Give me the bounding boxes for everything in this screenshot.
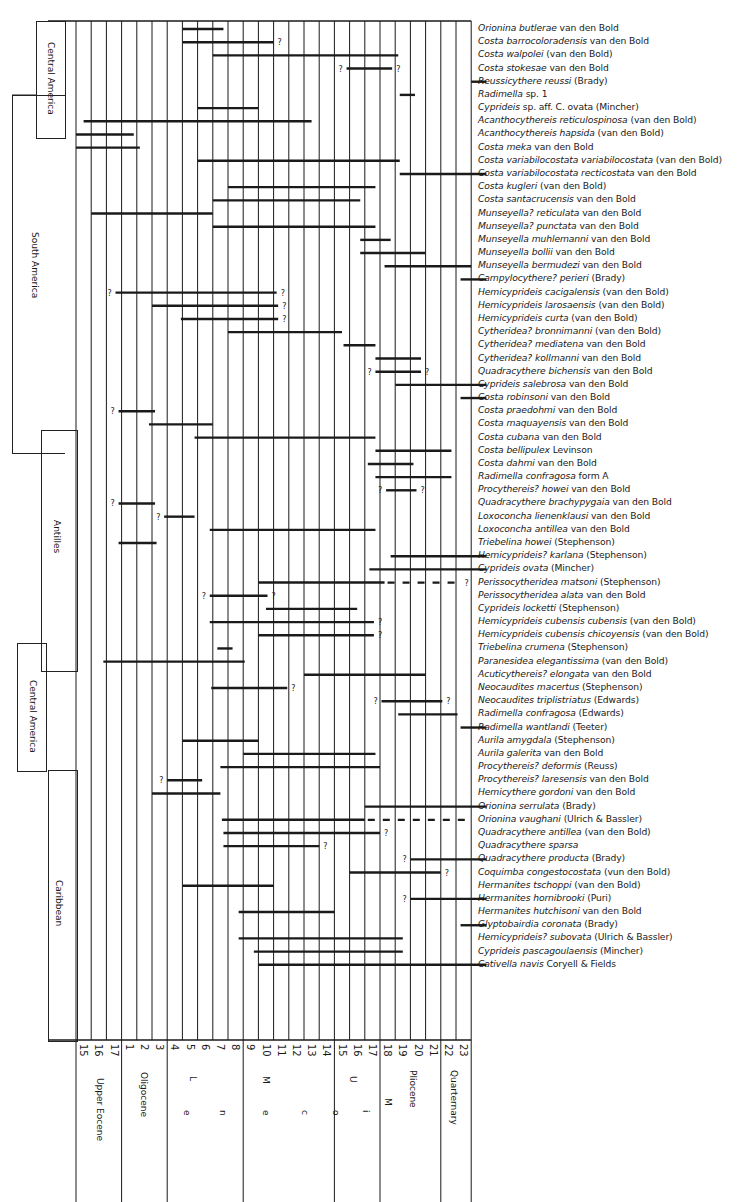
species-label: Acanthocythereis hapsida (van den Bold) bbox=[478, 127, 664, 139]
species-label: Cativella navis Coryell & Fields bbox=[478, 958, 616, 970]
zone-tick-label: 12 bbox=[291, 1044, 302, 1057]
species-label: Quadracythere sparsa bbox=[478, 839, 578, 851]
uncertain-start-mark: ? bbox=[378, 486, 382, 495]
species-label: Hemicyprideis larosaensis (van den Bold) bbox=[478, 299, 665, 311]
species-label: Loxoconcha lienenklausi van den Bold bbox=[478, 510, 650, 522]
species-label: Costa variabilocostata recticostata van … bbox=[478, 167, 696, 179]
region-label: Caribbean bbox=[54, 880, 64, 926]
miocene-letter: e bbox=[182, 1110, 192, 1116]
species-label: Munseyella muhlemanni van den Bold bbox=[478, 233, 650, 245]
zone-tick-label: 22 bbox=[443, 1044, 454, 1057]
zone-tick-label: 23 bbox=[458, 1044, 469, 1057]
region-label: South America bbox=[30, 232, 40, 298]
species-label: Munseyella? reticulata van den Bold bbox=[478, 207, 641, 219]
zone-tick-label: 17 bbox=[367, 1044, 378, 1057]
epoch-label: Oligocene bbox=[139, 1072, 149, 1117]
species-label: Radimella sp. 1 bbox=[478, 88, 547, 100]
uncertain-end-mark: ? bbox=[378, 631, 382, 640]
species-label: Costa maquayensis van den Bold bbox=[478, 417, 628, 429]
species-label: Loxoconcha antillea van den Bold bbox=[478, 523, 630, 535]
species-label: Radimella confragosa (Edwards) bbox=[478, 707, 624, 719]
species-label: Aurila amygdala (Stephenson) bbox=[478, 734, 615, 746]
uncertain-start-mark: ? bbox=[367, 368, 371, 377]
species-label: Paranesidea elegantissima (van den Bold) bbox=[478, 655, 668, 667]
uncertain-start-mark: ? bbox=[339, 65, 343, 74]
species-label: Cyprideis ovata (Mincher) bbox=[478, 562, 594, 574]
miocene-letter: M bbox=[261, 1076, 271, 1084]
zone-tick-label: 14 bbox=[321, 1044, 332, 1057]
zone-tick-label: 7 bbox=[215, 1044, 226, 1050]
species-label: Aurila galerita van den Bold bbox=[478, 747, 603, 759]
species-label: Cytheridea? bronnimanni (van den Bold) bbox=[478, 325, 661, 337]
zone-tick-label: 8 bbox=[230, 1044, 241, 1050]
species-label: Procythereis? laresensis van den Bold bbox=[478, 773, 649, 785]
zone-tick-label: 16 bbox=[93, 1044, 104, 1057]
miocene-letter: U bbox=[348, 1076, 358, 1083]
species-label: Cytheridea? kollmanni van den Bold bbox=[478, 352, 641, 364]
species-label: Procythereis? deformis (Reuss) bbox=[478, 760, 618, 772]
uncertain-end-mark: ? bbox=[465, 579, 469, 588]
species-label: Triebelina crumena (Stephenson) bbox=[478, 641, 628, 653]
miocene-letter: i bbox=[361, 1110, 371, 1113]
species-label: Acanthocythereis reticulospinosa (van de… bbox=[478, 114, 697, 126]
species-label: Quadracythere brachypygaia van den Bold bbox=[478, 496, 672, 508]
uncertain-start-mark: ? bbox=[156, 513, 160, 522]
species-label: Costa kugleri (van den Bold) bbox=[478, 180, 606, 192]
epoch-label: Pliocene bbox=[408, 1070, 418, 1108]
uncertain-end-mark: ? bbox=[425, 368, 429, 377]
uncertain-end-mark: ? bbox=[445, 869, 449, 878]
species-label: Costa praedohmi van den Bold bbox=[478, 404, 617, 416]
species-label: Costa robinsoni van den Bold bbox=[478, 391, 610, 403]
epoch-label: Quarternary bbox=[449, 1070, 459, 1125]
uncertain-end-mark: ? bbox=[282, 302, 286, 311]
zone-tick-label: 6 bbox=[200, 1044, 211, 1050]
species-label: Neocaudites macertus (Stephenson) bbox=[478, 681, 643, 693]
species-label: Hemicyprideis cubensis cubensis (van den… bbox=[478, 615, 696, 627]
species-label: Costa santacrucensis van den Bold bbox=[478, 193, 636, 205]
species-label: Cytheridea? mediatena van den Bold bbox=[478, 338, 645, 350]
species-label: Orionina serrulata (Brady) bbox=[478, 800, 596, 812]
uncertain-start-mark: ? bbox=[108, 289, 112, 298]
epoch-label: Upper Eocene bbox=[95, 1078, 105, 1141]
species-label: Munseyella bollii van den Bold bbox=[478, 246, 615, 258]
miocene-letter: L bbox=[188, 1076, 198, 1081]
species-label: Orionina vaughani (Ulrich & Bassler) bbox=[478, 813, 642, 825]
uncertain-start-mark: ? bbox=[202, 592, 206, 601]
zone-tick-label: 9 bbox=[245, 1044, 256, 1050]
uncertain-end-mark: ? bbox=[446, 697, 450, 706]
miocene-letter: c bbox=[300, 1110, 310, 1115]
uncertain-end-mark: ? bbox=[323, 842, 327, 851]
species-label: Hemicyprideis curta (van den Bold) bbox=[478, 312, 637, 324]
uncertain-end-mark: ? bbox=[278, 38, 282, 47]
uncertain-end-mark: ? bbox=[396, 65, 400, 74]
species-label: Hemicythere gordoni van den Bold bbox=[478, 786, 635, 798]
uncertain-end-mark: ? bbox=[282, 315, 286, 324]
zone-tick-label: 15 bbox=[337, 1044, 348, 1057]
species-label: Hemicyprideis? karlana (Stephenson) bbox=[478, 549, 647, 561]
species-label: Cyprideis sp. aff. C. ovata (Mincher) bbox=[478, 101, 639, 113]
species-label: Radimella confragosa form A bbox=[478, 470, 609, 482]
species-label: Costa meka van den Bold bbox=[478, 141, 594, 153]
zone-tick-label: 11 bbox=[276, 1044, 287, 1057]
species-label: Quadracythere antillea (van den Bold) bbox=[478, 826, 651, 838]
region-label: Central America bbox=[28, 680, 38, 753]
uncertain-end-mark: ? bbox=[291, 684, 295, 693]
zone-tick-label: 18 bbox=[382, 1044, 393, 1057]
species-label: Campylocythere? perieri (Brady) bbox=[478, 272, 625, 284]
zone-tick-label: 2 bbox=[139, 1044, 150, 1050]
zone-tick-label: 3 bbox=[154, 1044, 165, 1050]
species-label: Cyprideis pascagoulaensis (Mincher) bbox=[478, 945, 643, 957]
uncertain-start-mark: ? bbox=[111, 499, 115, 508]
uncertain-end-mark: ? bbox=[384, 829, 388, 838]
zone-tick-label: 17 bbox=[109, 1044, 120, 1057]
uncertain-end-mark: ? bbox=[378, 618, 382, 627]
region-label: Antilles bbox=[52, 520, 62, 553]
uncertain-start-mark: ? bbox=[402, 895, 406, 904]
miocene-letter: e bbox=[261, 1110, 271, 1116]
uncertain-start-mark: ? bbox=[402, 855, 406, 864]
species-label: Perissocytheridea alata van den Bold bbox=[478, 589, 645, 601]
uncertain-start-mark: ? bbox=[111, 407, 115, 416]
zone-tick-label: 1 bbox=[124, 1044, 135, 1050]
species-label: Costa bellipulex Levinson bbox=[478, 444, 593, 456]
species-label: Acuticythereis? elongata van den Bold bbox=[478, 668, 651, 680]
